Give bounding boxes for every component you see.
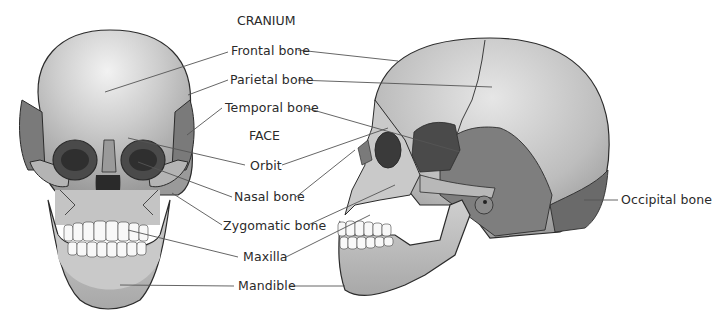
lateral-skull (338, 38, 609, 295)
skull-diagram: CRANIUM FACE Frontal bone Parietal bone … (0, 0, 713, 329)
label-maxilla: Maxilla (243, 250, 288, 264)
label-temporal-bone: Temporal bone (225, 101, 319, 115)
label-mandible: Mandible (238, 279, 296, 293)
face-header: FACE (249, 129, 280, 143)
skull-illustration (0, 0, 713, 329)
label-parietal-bone: Parietal bone (230, 73, 313, 87)
label-occipital-bone: Occipital bone (621, 193, 712, 207)
label-frontal-bone: Frontal bone (231, 44, 310, 58)
label-zygomatic-bone: Zygomatic bone (223, 219, 326, 233)
label-orbit: Orbit (250, 159, 282, 173)
cranium-header: CRANIUM (237, 14, 295, 28)
label-nasal-bone: Nasal bone (234, 190, 305, 204)
